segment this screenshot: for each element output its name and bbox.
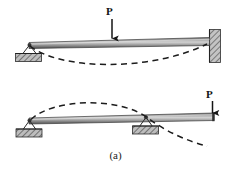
deflection-curve-bottom [31, 103, 207, 146]
beam-deflection-figure: P P (a) [0, 0, 231, 170]
figure-caption: (a) [0, 149, 231, 161]
load-label-bottom: P [206, 89, 213, 100]
subfigure-bottom [16, 101, 215, 146]
beam-top [29, 38, 210, 49]
figure-canvas [0, 0, 231, 170]
beam-bottom [29, 113, 215, 124]
load-label-top: P [106, 6, 113, 17]
fixed-wall-support-top-right [210, 30, 221, 63]
subfigure-top [16, 19, 221, 65]
